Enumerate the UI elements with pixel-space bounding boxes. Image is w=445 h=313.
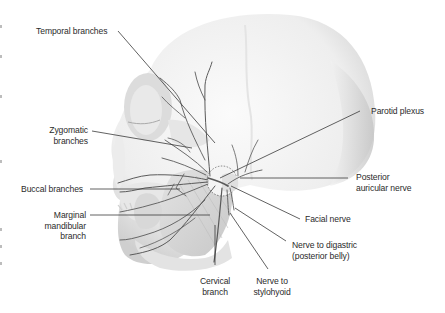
label-facial-text: Facial nerve xyxy=(305,214,351,225)
leader-facial xyxy=(231,186,300,219)
label-temporal-text: Temporal branches xyxy=(36,26,107,37)
label-digastric-line1: Nerve to digastric xyxy=(292,240,357,251)
label-nerve-to-digastric: Nerve to digastric (posterior belly) xyxy=(292,240,357,261)
label-zygomatic-line2: branches xyxy=(38,136,88,147)
label-marginal-mandibular-branch: Marginal mandibular branch xyxy=(30,210,86,242)
label-cervical-line1: Cervical xyxy=(192,276,238,287)
label-buccal-branches: Buccal branches xyxy=(21,184,83,195)
label-posterior-auricular-nerve: Posterior auricular nerve xyxy=(356,172,411,193)
label-buccal-text: Buccal branches xyxy=(21,184,83,195)
label-marginal-line1: Marginal xyxy=(30,210,86,221)
label-posterior-auricular-line2: auricular nerve xyxy=(356,183,411,194)
label-marginal-line3: branch xyxy=(30,231,86,242)
label-parotid-text: Parotid plexus xyxy=(371,106,424,117)
label-marginal-line2: mandibular xyxy=(30,221,86,232)
label-parotid-plexus: Parotid plexus xyxy=(371,106,424,117)
facial-nerve-diagram xyxy=(0,0,445,313)
label-cervical-line2: branch xyxy=(192,287,238,298)
label-stylohyoid-line2: stylohyoid xyxy=(247,287,297,298)
orbit-inner xyxy=(130,85,162,135)
leader-digastric xyxy=(235,208,286,241)
label-digastric-line2: (posterior belly) xyxy=(292,251,357,262)
label-facial-nerve: Facial nerve xyxy=(305,214,351,225)
label-temporal-branches: Temporal branches xyxy=(36,26,107,37)
label-nerve-to-stylohyoid: Nerve to stylohyoid xyxy=(247,276,297,297)
label-zygomatic-branches: Zygomatic branches xyxy=(38,125,88,146)
label-cervical-branch: Cervical branch xyxy=(192,276,238,297)
leader-stylohyoid xyxy=(230,213,268,269)
left-edge-marks xyxy=(0,25,2,265)
label-posterior-auricular-line1: Posterior xyxy=(356,172,411,183)
label-zygomatic-line1: Zygomatic xyxy=(38,125,88,136)
label-stylohyoid-line1: Nerve to xyxy=(247,276,297,287)
